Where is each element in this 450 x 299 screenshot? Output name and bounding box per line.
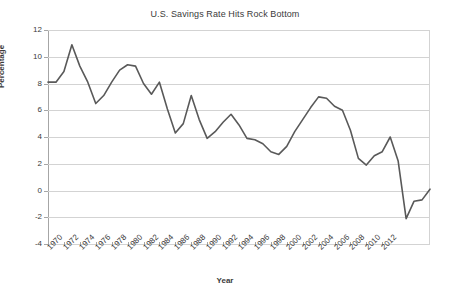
- y-tick-label: -4: [16, 240, 42, 248]
- y-tick-label: 8: [16, 80, 42, 88]
- data-series-line: [48, 30, 430, 244]
- chart-root: U.S. Savings Rate Hits Rock Bottom Perce…: [0, 0, 450, 299]
- series-path: [48, 45, 430, 219]
- y-tick-label: -2: [16, 213, 42, 221]
- y-tick-label: 0: [16, 187, 42, 195]
- y-tick-label: 12: [16, 26, 42, 34]
- y-tick-label: 2: [16, 160, 42, 168]
- y-tick-label: 6: [16, 106, 42, 114]
- y-axis-title: Percentage: [0, 45, 6, 88]
- x-axis-tick-labels: 1970197219741976197819801982198419861988…: [48, 246, 430, 288]
- y-tick-label: 4: [16, 133, 42, 141]
- plot-area: 121086420-2-4: [48, 30, 430, 244]
- chart-title: U.S. Savings Rate Hits Rock Bottom: [0, 9, 450, 19]
- y-tick-label: 10: [16, 53, 42, 61]
